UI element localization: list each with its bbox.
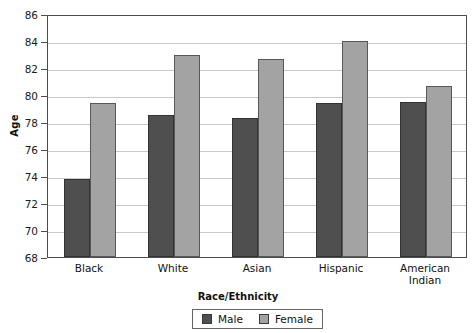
y-tick-label: 82	[0, 64, 38, 74]
y-tick-label: 74	[0, 172, 38, 182]
legend-label: Female	[275, 313, 313, 325]
legend: MaleFemale	[192, 309, 323, 329]
x-tick-label: AmericanIndian	[375, 262, 475, 286]
y-tick-label: 86	[0, 10, 38, 20]
legend-item-male: Male	[202, 313, 243, 325]
x-tick-label-line1: American	[375, 262, 475, 274]
bar-female-hispanic	[342, 41, 368, 257]
bar-chart-figure: Age 86848280787674727068 BlackWhiteAsian…	[0, 0, 476, 333]
y-tick-label: 84	[0, 37, 38, 47]
bar-female-asian	[258, 59, 284, 257]
bar-female-american-indian	[426, 86, 452, 257]
y-tick-label: 68	[0, 253, 38, 263]
plot-area	[47, 15, 467, 258]
bar-male-american-indian	[400, 102, 426, 257]
y-tick-label: 76	[0, 145, 38, 155]
y-tick-label: 78	[0, 118, 38, 128]
bar-male-asian	[232, 118, 258, 257]
bar-male-black	[64, 179, 90, 257]
gridline	[48, 43, 466, 44]
x-axis-title: Race/Ethnicity	[0, 291, 476, 302]
gridline	[48, 97, 466, 98]
y-tick-label: 70	[0, 226, 38, 236]
bar-male-hispanic	[316, 103, 342, 257]
y-tick-label: 72	[0, 199, 38, 209]
legend-label: Male	[218, 313, 243, 325]
bar-female-black	[90, 103, 116, 257]
legend-item-female: Female	[259, 313, 313, 325]
bar-male-white	[148, 115, 174, 257]
legend-swatch-icon	[259, 314, 269, 324]
y-tick-label: 80	[0, 91, 38, 101]
y-tick-mark	[41, 258, 47, 259]
x-tick-label-line2: Indian	[375, 274, 475, 286]
gridline	[48, 70, 466, 71]
bar-female-white	[174, 55, 200, 258]
legend-swatch-icon	[202, 314, 212, 324]
